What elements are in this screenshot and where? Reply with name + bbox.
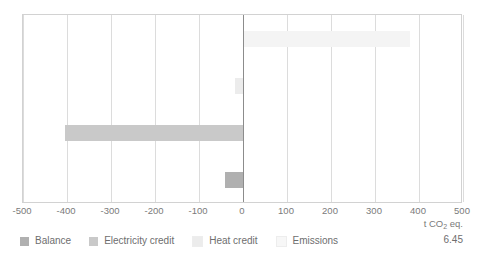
x-tick-label-400: 400 (410, 205, 426, 217)
legend-item-heat-credit[interactable]: Heat credit (192, 235, 257, 247)
bar-heat-credit (235, 78, 243, 94)
legend-item-balance[interactable]: Balance (20, 235, 71, 247)
gridline--300 (111, 15, 112, 202)
x-tick-label--100: -100 (188, 205, 207, 217)
bar-balance (225, 172, 243, 188)
gridline--200 (155, 15, 156, 202)
bar-emissions (243, 31, 410, 47)
zero-axis-line (243, 15, 244, 202)
emissions-balance-bar-chart: -500-400-300-200-1000100200300400500 t C… (0, 0, 482, 258)
legend-label: Heat credit (209, 235, 257, 247)
unit-prefix: t CO (424, 218, 444, 229)
x-tick-label-500: 500 (454, 205, 470, 217)
legend-swatch-icon (89, 237, 98, 246)
x-tick-label--300: -300 (100, 205, 119, 217)
bar-electricity-credit (65, 125, 243, 141)
unit-subscript: 2 (443, 223, 447, 230)
gridline--400 (67, 15, 68, 202)
x-tick-label-300: 300 (366, 205, 382, 217)
legend-swatch-icon (276, 236, 287, 247)
legend-swatch-icon (192, 236, 203, 247)
gridline--100 (199, 15, 200, 202)
x-tick-label--500: -500 (12, 205, 31, 217)
gridline--500 (23, 15, 24, 202)
legend-item-emissions[interactable]: Emissions (276, 235, 339, 247)
legend-label: Balance (35, 235, 71, 247)
x-tick-label--400: -400 (56, 205, 75, 217)
legend-label: Electricity credit (104, 235, 174, 247)
x-tick-label-0: 0 (239, 205, 244, 217)
x-axis-tick-labels: -500-400-300-200-1000100200300400500 (22, 205, 462, 219)
legend-label: Emissions (293, 235, 339, 247)
gridline-500 (463, 15, 464, 202)
unit-suffix: eq. (447, 218, 463, 229)
x-tick-label-200: 200 (322, 205, 338, 217)
axis-unit-label: t CO2 eq. (424, 218, 463, 231)
gridline-400 (419, 15, 420, 202)
corner-value-label: 6.45 (444, 234, 463, 246)
legend-item-electricity-credit[interactable]: Electricity credit (89, 235, 174, 247)
chart-legend: BalanceElectricity creditHeat creditEmis… (20, 234, 356, 248)
x-tick-label-100: 100 (278, 205, 294, 217)
plot-area (22, 14, 462, 203)
x-tick-label--200: -200 (144, 205, 163, 217)
legend-swatch-icon (20, 237, 29, 246)
